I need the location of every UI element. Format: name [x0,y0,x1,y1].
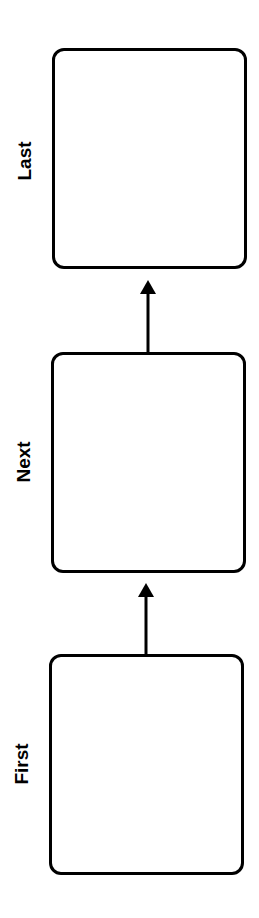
arrows-layer [0,0,259,918]
arrow-first-to-next-icon [138,583,154,654]
arrow-next-to-last-icon [140,280,156,352]
